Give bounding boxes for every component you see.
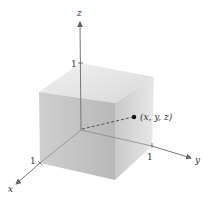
z-tick-label: 1 [71,59,77,69]
x-axis-label: x [8,184,13,194]
y-axis-label: y [194,155,201,165]
point-marker [132,115,136,119]
point-label: (x, y, z) [140,112,173,122]
cube-left-face [39,92,115,180]
x-tick-label: 1 [30,156,36,166]
z-axis-label: z [76,8,82,18]
cube-diagram: z 1 x 1 y 1 (x, y, z) [0,0,207,201]
x-axis [16,163,40,184]
y-axis [152,146,191,158]
y-tick-label: 1 [147,152,153,162]
